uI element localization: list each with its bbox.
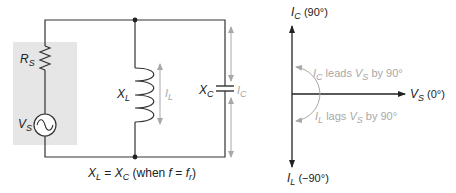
inductor-current-label: IL [165, 87, 173, 102]
lag-note: IL lags VS by 90° [315, 110, 397, 125]
circuit-diagram: RS VS XL IL XC IC XL = XC (when f = fr) [13, 18, 247, 182]
ic-phasor-label: IC (90°) [291, 5, 328, 21]
il-phasor-label: IL (−90°) [287, 171, 329, 187]
capacitor-label: XC [198, 83, 214, 99]
capacitor-symbol [216, 86, 234, 91]
vs-phasor-label: VS (0°) [410, 87, 445, 103]
junction-dot-top [133, 18, 138, 23]
ac-source-symbol [34, 114, 56, 136]
inductor-symbol [135, 68, 154, 122]
junction-dot-bottom [133, 155, 138, 160]
resonance-caption: XL = XC (when f = fr) [87, 166, 196, 182]
phasor-diagram: IC (90°) VS (0°) IL (−90°) IC leads VS b… [287, 5, 445, 187]
capacitor-current-label: IC [237, 84, 247, 99]
parallel-resonance-figure: RS VS XL IL XC IC XL = XC (when f = fr) … [0, 0, 456, 193]
inductor-label: XL [116, 87, 130, 103]
lead-note: IC leads VS by 90° [313, 67, 403, 82]
